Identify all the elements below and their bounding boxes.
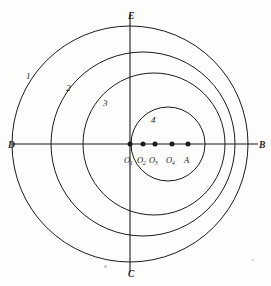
scan-speck-1 — [252, 259, 254, 261]
point-subscript: 4 — [172, 160, 175, 166]
cardinal-label-e: E — [128, 12, 134, 22]
figure-canvas — [0, 0, 271, 286]
point-subscript: 2 — [143, 160, 146, 166]
region-label-3: 3 — [103, 99, 108, 108]
region-label-1: 1 — [26, 72, 31, 81]
region-label-2: 2 — [66, 84, 71, 93]
scan-speck-0 — [104, 265, 107, 268]
point-label-o2: O2 — [137, 156, 146, 165]
point-label-a: A — [184, 156, 189, 165]
geometry-figure: E B C D 1 2 3 4 O1 O2 O3 O4 A — [0, 0, 271, 286]
cardinal-label-c: C — [128, 270, 134, 280]
point-subscript: 1 — [130, 160, 133, 166]
cardinal-label-d: D — [8, 141, 15, 151]
point-label-o4: O4 — [166, 156, 175, 165]
point-label-o3: O3 — [149, 156, 158, 165]
region-label-4: 4 — [151, 116, 156, 125]
point-o2 — [141, 142, 146, 147]
point-o1 — [128, 142, 133, 147]
cardinal-label-b: B — [259, 141, 265, 151]
point-label-o1: O1 — [124, 156, 133, 165]
point-subscript: 3 — [155, 160, 158, 166]
point-a — [186, 142, 191, 147]
point-o3 — [153, 142, 158, 147]
point-o4 — [170, 142, 175, 147]
